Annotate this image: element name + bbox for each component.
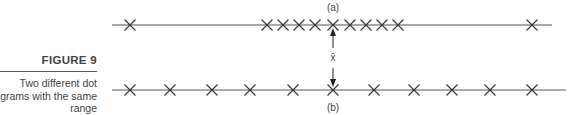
- label-a: (a): [327, 2, 339, 13]
- mean-label: x̄: [331, 52, 336, 63]
- label-b: (b): [327, 102, 339, 113]
- dot-diagrams: (a) (b) x̄: [0, 0, 569, 115]
